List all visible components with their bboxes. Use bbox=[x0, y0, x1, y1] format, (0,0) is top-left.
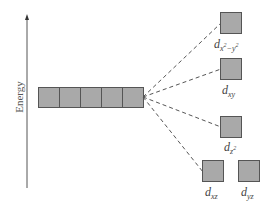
arrow-up-icon bbox=[25, 14, 29, 20]
orbital-box-dyz bbox=[239, 161, 260, 182]
orbital-label-dx2-y2: dx2−y2 bbox=[214, 38, 239, 55]
orbital-splitting-diagram bbox=[0, 0, 272, 207]
orbital-label-dyz: dyz bbox=[241, 186, 254, 203]
orbital-box-dz2 bbox=[221, 117, 242, 138]
connector-dxy bbox=[143, 69, 221, 97]
orbital-label-dxz: dxz bbox=[205, 186, 218, 203]
energy-axis-label: Energy bbox=[12, 79, 26, 115]
orbital-box-dxy bbox=[221, 59, 242, 80]
degenerate-orbital-box bbox=[81, 88, 102, 108]
orbital-box-dx2-y2 bbox=[221, 13, 242, 34]
orbital-label-dz2: dz2 bbox=[224, 141, 236, 158]
orbital-box-dxz bbox=[203, 161, 224, 182]
degenerate-orbital-set bbox=[39, 88, 144, 108]
orbital-label-dxy: dxy bbox=[222, 84, 235, 101]
degenerate-orbital-box bbox=[60, 88, 81, 108]
connector-dz2 bbox=[143, 97, 221, 127]
degenerate-orbital-box bbox=[39, 88, 60, 108]
splitting-connectors bbox=[143, 23, 221, 172]
degenerate-orbital-box bbox=[123, 88, 144, 108]
connector-dxz bbox=[143, 97, 203, 172]
degenerate-orbital-box bbox=[102, 88, 123, 108]
connector-dx2-y2 bbox=[143, 23, 221, 97]
